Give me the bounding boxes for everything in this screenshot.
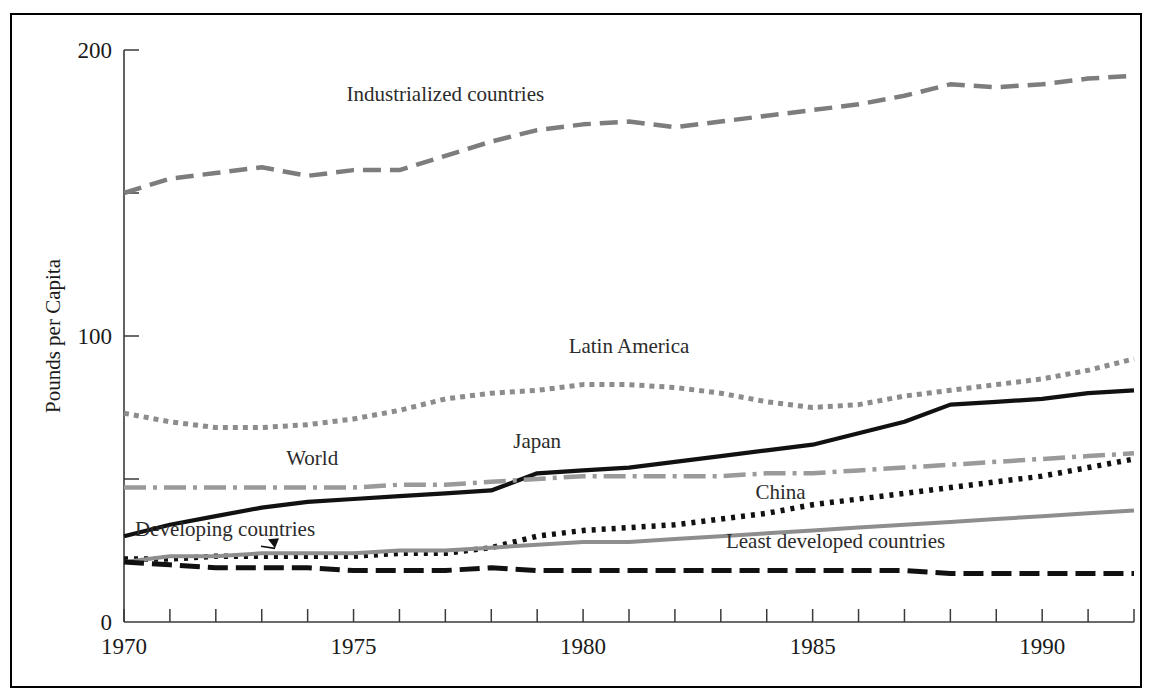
series-label-world: World — [286, 446, 338, 470]
series-label-china: China — [755, 480, 806, 504]
x-axis-tick-label: 1970 — [101, 634, 147, 659]
series-label-least-developed-countries: Least developed countries — [726, 529, 945, 553]
chart-plot-area: 010020019701975198019851990 Industrializ… — [12, 15, 1144, 690]
y-axis-tick-label: 200 — [78, 38, 113, 63]
x-axis-tick-label: 1990 — [1019, 634, 1065, 659]
y-axis-tick-label: 100 — [78, 324, 113, 349]
label-leader-line — [261, 546, 275, 548]
x-axis-tick-label: 1980 — [560, 634, 606, 659]
series-label-industrialized-countries: Industrialized countries — [347, 82, 545, 106]
series-label-japan: Japan — [513, 429, 561, 453]
line-chart: 010020019701975198019851990 Industrializ… — [12, 15, 1144, 690]
series-labels: Industrialized countriesLatin AmericaJap… — [135, 82, 945, 552]
series-lines — [124, 76, 1134, 574]
axis-titles: Pounds per Capita — [41, 258, 65, 413]
y-axis-tick-label: 0 — [101, 610, 113, 635]
series-line-least-developed-countries — [124, 562, 1134, 573]
series-label-latin-america: Latin America — [569, 334, 690, 358]
series-line-industrialized-countries — [124, 76, 1134, 193]
y-axis-title: Pounds per Capita — [41, 258, 65, 413]
x-axis-tick-label: 1975 — [331, 634, 377, 659]
figure-frame: 010020019701975198019851990 Industrializ… — [10, 13, 1142, 688]
series-line-latin-america — [124, 359, 1134, 428]
series-label-developing-countries: Developing countries — [135, 517, 315, 541]
x-axis-tick-label: 1985 — [790, 634, 836, 659]
